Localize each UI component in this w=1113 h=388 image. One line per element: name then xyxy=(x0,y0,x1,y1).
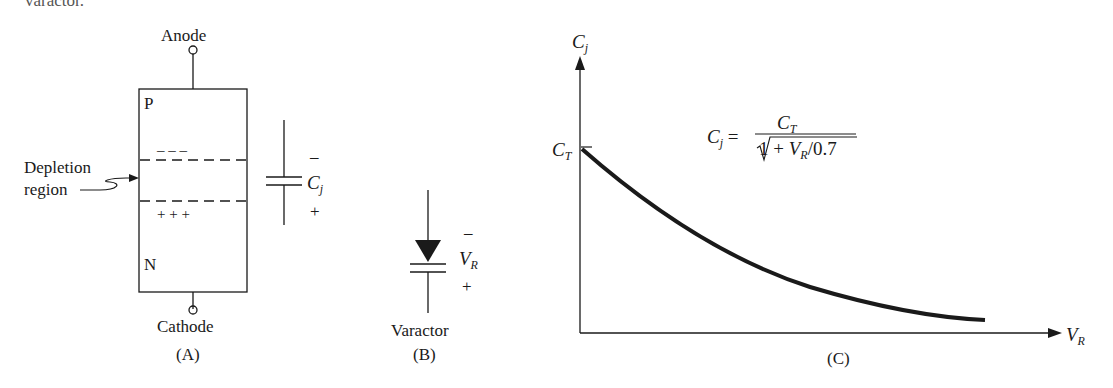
varactor-label: Varactor xyxy=(391,322,449,339)
caption-b: (B) xyxy=(413,346,436,363)
cathode-label: Cathode xyxy=(157,318,214,335)
formula-denominator: 1 + VR/0.7 xyxy=(759,138,837,163)
capacitance-curve xyxy=(582,149,985,320)
y-axis-label: Cj xyxy=(572,32,588,54)
anode-label: Anode xyxy=(161,27,206,44)
n-region-label: N xyxy=(144,256,156,273)
negative-charges: – – – xyxy=(157,143,187,158)
vr-label: VR xyxy=(459,249,478,271)
pn-junction-diagram xyxy=(80,46,302,314)
ct-tick-label: CT xyxy=(552,140,571,162)
formula-lhs: Cj = xyxy=(707,126,739,151)
p-region-label: P xyxy=(144,95,153,112)
x-axis-label: VR xyxy=(1066,325,1085,347)
formula-numerator: CT xyxy=(777,112,796,137)
x-axis-arrow-icon xyxy=(1048,328,1062,338)
cj-capacitor-label: Cj xyxy=(307,173,323,195)
varactor-plus: + xyxy=(462,278,472,295)
depletion-label-line1: Depletion xyxy=(24,159,91,176)
varactor-minus: – xyxy=(464,224,473,241)
anode-terminal-icon xyxy=(189,46,197,54)
depletion-pointer-icon xyxy=(80,178,133,190)
capacitor-minus: – xyxy=(310,148,319,165)
capacitance-chart xyxy=(575,56,1062,338)
caption-a: (A) xyxy=(176,346,200,363)
varactor-symbol xyxy=(410,190,446,313)
caption-c: (C) xyxy=(827,350,850,367)
positive-charges: + + + xyxy=(157,207,190,222)
diode-triangle-icon xyxy=(415,240,441,262)
y-axis-arrow-icon xyxy=(575,56,585,70)
capacitor-plus: + xyxy=(310,203,320,220)
depletion-label-line2: region xyxy=(24,181,67,198)
